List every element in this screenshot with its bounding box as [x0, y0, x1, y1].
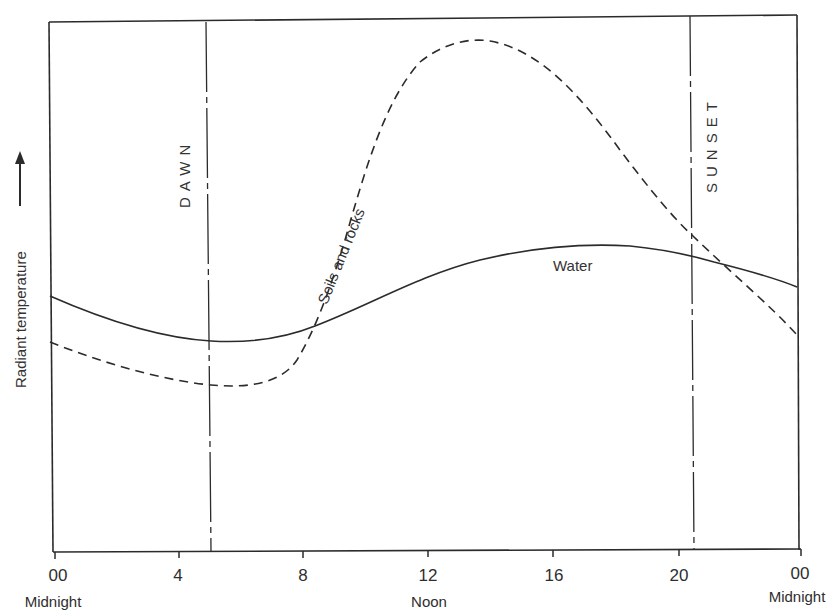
- midnight-right-label: Midnight: [769, 588, 826, 605]
- sunset-line: [690, 16, 694, 549]
- x-tick-16: 16: [545, 566, 564, 586]
- up-arrow-icon: [12, 150, 28, 208]
- y-axis-line: [49, 22, 53, 552]
- x-axis-line: [53, 549, 801, 552]
- frame-top: [49, 15, 797, 22]
- chart-canvas: [0, 0, 838, 615]
- x-tick-12: 12: [419, 566, 438, 586]
- x-tick-4: 4: [173, 566, 182, 586]
- x-tick-20: 20: [670, 566, 689, 586]
- x-tick-8: 8: [298, 566, 307, 586]
- sunset-label: SUNSET: [703, 96, 720, 193]
- noon-label: Noon: [411, 593, 447, 610]
- frame-right: [797, 15, 799, 550]
- y-axis-label: Radiant temperature: [12, 251, 29, 388]
- dawn-label: DAWN: [176, 139, 193, 208]
- x-axis-ticks: [55, 549, 801, 559]
- x-tick-0: 00: [49, 566, 68, 586]
- x-tick-24: 00: [791, 564, 810, 584]
- water-label: Water: [553, 257, 592, 274]
- midnight-left-label: Midnight: [25, 593, 82, 610]
- dawn-line: [206, 22, 211, 551]
- water-curve: [50, 245, 797, 341]
